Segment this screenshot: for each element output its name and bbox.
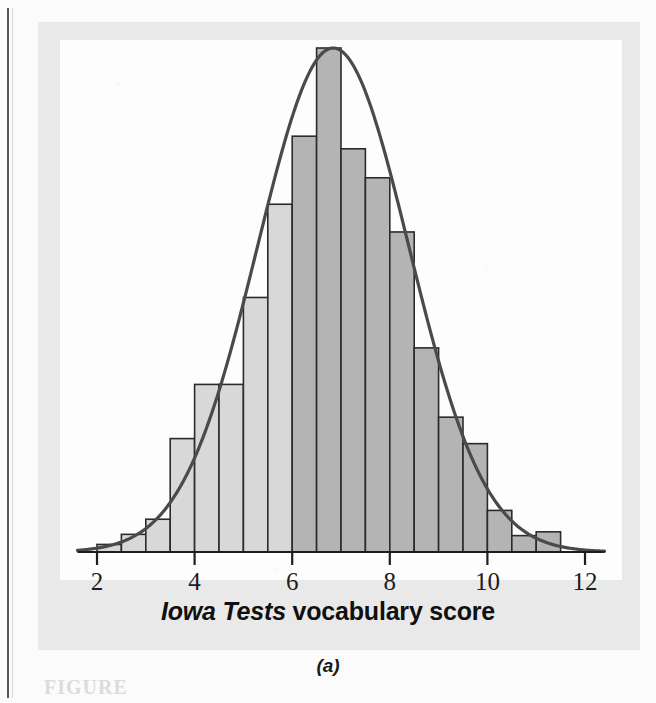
histogram-bar <box>195 384 219 552</box>
histogram-bar <box>317 48 341 552</box>
figure-caption-partial: FIGURE <box>44 676 344 700</box>
x-axis-tick-label: 8 <box>384 568 397 596</box>
x-axis-tick-label: 2 <box>91 568 104 596</box>
histogram-bar <box>219 384 243 552</box>
histogram-bar <box>414 348 438 552</box>
x-axis-tick-label: 12 <box>573 568 598 596</box>
histogram-bar <box>463 444 487 552</box>
x-axis-title-space <box>286 597 293 625</box>
histogram-bars <box>97 48 561 552</box>
histogram-bar <box>365 178 389 552</box>
x-axis-tick-label: 4 <box>188 568 201 596</box>
x-axis-tick-label: 6 <box>286 568 299 596</box>
panel-letter-caption: (a) <box>0 655 656 677</box>
histogram-bar <box>292 136 316 552</box>
x-axis-title-roman: vocabulary score <box>293 597 495 625</box>
x-axis-title-italic: Iowa Tests <box>161 597 286 625</box>
x-axis <box>77 552 604 565</box>
x-axis-title: Iowa Tests vocabulary score <box>0 597 656 626</box>
histogram-bar <box>439 417 463 552</box>
histogram-bar <box>268 204 292 552</box>
histogram-bar <box>243 297 267 552</box>
histogram-bar <box>390 232 414 552</box>
x-axis-tick-label: 10 <box>475 568 500 596</box>
histogram-bar <box>341 149 365 552</box>
